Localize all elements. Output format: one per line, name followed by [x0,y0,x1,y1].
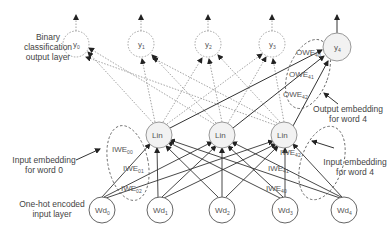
output-embedding-labels: OWE40 OWE41 OWE42 [283,48,321,100]
input-embedding-0-label-line1: Input embedding [10,155,78,165]
output-node-y2: y2 [195,31,221,57]
svg-text:OWE41: OWE41 [289,70,314,80]
output-arrows [76,15,272,31]
svg-text:IWE40: IWE40 [266,184,287,194]
input-layer-label-line2: input layer [18,209,86,219]
input-layer-nodes: Wd0 Wd1 Wd2 Wd3 Wd4 [89,197,357,223]
output-node-y3: y3 [259,31,285,57]
input-embedding-0-label: Input embedding for word 0 [10,155,78,175]
hidden-node-2: Lin [271,122,297,148]
input-node-wd1: Wd1 [147,197,173,223]
input-node-wd2: Wd2 [209,197,235,223]
hidden-layer-nodes: Lin Lin Lin [146,122,297,148]
input-node-wd3: Wd3 [272,197,298,223]
input-embedding-4-labels: IWE42 IWE41 IWE40 [266,148,301,194]
input-embedding-0-label-line2: for word 0 [10,165,78,175]
input-node-wd4: Wd4 [331,197,357,223]
output-layer-label-line2: classification [22,42,74,52]
svg-text:Lin: Lin [215,131,226,140]
svg-text:IWE02: IWE02 [121,184,142,194]
svg-text:OWE40: OWE40 [296,48,321,58]
dotted-edges [86,48,284,125]
svg-text:IWE00: IWE00 [112,145,133,155]
output-layer-label-line3: output layer [22,52,74,62]
input-embedding-4-label-line2: for word 4 [320,167,390,177]
hidden-node-0: Lin [146,122,172,148]
output-layer-label-line1: Binary [22,32,74,42]
output-node-y4: y4 [323,33,351,61]
svg-text:Lin: Lin [152,131,163,140]
input-layer-label-line1: One-hot encoded [18,199,86,209]
hidden-node-1: Lin [209,122,235,148]
output-embedding-label: Output embedding for word 4 [308,104,388,124]
output-embedding-label-line2: for word 4 [308,114,388,124]
input-layer-label: One-hot encoded input layer [18,199,86,219]
output-layer-label: Binary classification output layer [22,32,74,62]
input-embedding-4-label: Input embedding for word 4 [320,157,390,177]
output-embedding-label-line1: Output embedding [308,104,388,114]
input-embedding-4-label-line1: Input embedding [320,157,390,167]
svg-text:IWE01: IWE01 [123,164,144,174]
output-node-y1: y1 [128,31,154,57]
svg-text:OWE42: OWE42 [283,90,308,100]
svg-text:IWE41: IWE41 [268,164,289,174]
svg-text:Lin: Lin [277,131,288,140]
input-node-wd0: Wd0 [89,197,115,223]
